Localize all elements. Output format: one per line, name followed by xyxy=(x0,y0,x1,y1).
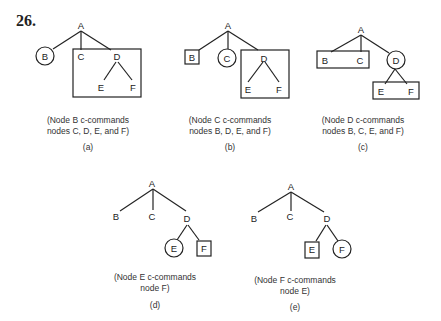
node-b: B xyxy=(251,213,257,224)
tree-e: A B C D E F xyxy=(251,181,351,258)
caption-a: (Node B c-commands nodes C, D, E, and F) xyxy=(38,115,138,137)
node-c: C xyxy=(149,211,156,222)
node-c: C xyxy=(287,211,294,222)
node-a: A xyxy=(358,24,365,35)
sublabel-a: (a) xyxy=(38,142,138,152)
node-d: D xyxy=(114,51,121,62)
sublabel-e: (e) xyxy=(245,302,345,312)
caption-c: (Node D c-commands nodes B, C, E, and F) xyxy=(313,115,413,137)
node-e: E xyxy=(309,244,315,255)
caption-b: (Node C c-commands nodes B, D, E, and F) xyxy=(180,115,280,137)
node-e: E xyxy=(378,86,384,97)
sublabel-d: (d) xyxy=(105,300,205,310)
caption-e: (Node F c-commands node E) xyxy=(245,275,345,297)
node-b: B xyxy=(42,51,48,62)
node-a: A xyxy=(225,20,232,31)
node-d: D xyxy=(324,213,331,224)
node-f: F xyxy=(339,244,345,255)
sublabel-c: (c) xyxy=(313,142,413,152)
node-d: D xyxy=(393,55,400,66)
node-d: D xyxy=(261,53,268,64)
node-a: A xyxy=(149,178,156,189)
node-f: F xyxy=(276,84,282,95)
node-d: D xyxy=(184,213,191,224)
tree-c: A B C D E F xyxy=(317,24,419,99)
c-command-trees: A B C D E F A B C D E F A B C D E xyxy=(0,0,441,321)
node-e: E xyxy=(171,243,177,254)
tree-a: A B C D E F xyxy=(36,20,141,97)
sublabel-b: (b) xyxy=(180,142,280,152)
node-f: F xyxy=(408,86,414,97)
node-c: C xyxy=(224,53,231,64)
tree-b: A B C D E F xyxy=(185,20,289,98)
node-f: F xyxy=(201,243,207,254)
node-c: C xyxy=(78,51,85,62)
node-f: F xyxy=(130,82,136,93)
node-b: B xyxy=(113,211,119,222)
node-b: B xyxy=(189,52,195,63)
caption-d: (Node E c-commands node F) xyxy=(105,272,205,294)
node-b: B xyxy=(322,55,328,66)
node-c: C xyxy=(357,55,364,66)
node-a: A xyxy=(288,181,295,192)
tree-d: A B C D E F xyxy=(113,178,211,257)
node-e: E xyxy=(245,84,251,95)
node-a: A xyxy=(78,20,85,31)
node-e: E xyxy=(98,82,104,93)
